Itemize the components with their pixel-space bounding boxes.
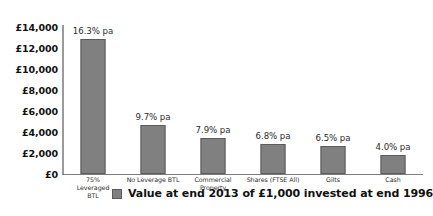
legend-swatch-icon <box>112 189 122 199</box>
y-axis-tick-label: £6,000 <box>22 105 58 116</box>
bar[interactable] <box>381 155 406 173</box>
bar-slot: 9.7% pa <box>123 27 183 174</box>
x-axis-category-label: No Leverage BTL <box>123 176 183 184</box>
category-label-line: No Leverage BTL <box>123 176 183 184</box>
y-axis-tick-label: £2,000 <box>22 147 58 158</box>
bar-slot: 6.5% pa <box>303 27 363 174</box>
y-axis: £14,000£12,000£10,000£8,000£6,000£4,000£… <box>0 21 62 175</box>
bar-slot: 7.9% pa <box>183 27 243 174</box>
bar-slot: 6.8% pa <box>243 27 303 174</box>
bar-value-label: 6.5% pa <box>316 133 351 143</box>
bar-value-label: 6.8% pa <box>256 131 291 141</box>
x-axis-category-label: Gilts <box>303 176 363 184</box>
bar[interactable] <box>261 144 286 174</box>
y-axis-tick-label: £10,000 <box>15 63 58 74</box>
legend-label: Value at end 2013 of £1,000 invested at … <box>128 187 433 200</box>
bar-slot: 4.0% pa <box>363 27 423 174</box>
bar-value-label: 9.7% pa <box>136 112 171 122</box>
category-label-line: Shares (FTSE All) <box>243 176 303 184</box>
y-axis-tick-label: £8,000 <box>22 84 58 95</box>
y-axis-tick-label: £14,000 <box>15 22 58 33</box>
bar-value-label: 4.0% pa <box>376 142 411 152</box>
bar-slot: 16.3% pa <box>63 27 123 174</box>
bar-value-label: 7.9% pa <box>196 125 231 135</box>
x-axis-line <box>62 174 423 175</box>
bar-value-label: 16.3% pa <box>73 26 113 36</box>
plot-area: 16.3% pa9.7% pa7.9% pa6.8% pa6.5% pa4.0%… <box>63 27 423 174</box>
bar[interactable] <box>81 39 106 173</box>
y-axis-tick-label: £0 <box>45 168 58 179</box>
bar[interactable] <box>201 138 226 173</box>
chart-legend: Value at end 2013 of £1,000 invested at … <box>112 187 433 200</box>
x-axis-category-label: Cash <box>363 176 423 184</box>
category-label-line: Cash <box>363 176 423 184</box>
category-label-line: Gilts <box>303 176 363 184</box>
y-axis-tick-label: £12,000 <box>15 42 58 53</box>
y-axis-tick-label: £4,000 <box>22 126 58 137</box>
bar[interactable] <box>321 146 346 174</box>
category-label-line: 75% <box>63 176 123 184</box>
bar[interactable] <box>141 125 166 173</box>
x-axis-category-label: Shares (FTSE All) <box>243 176 303 184</box>
